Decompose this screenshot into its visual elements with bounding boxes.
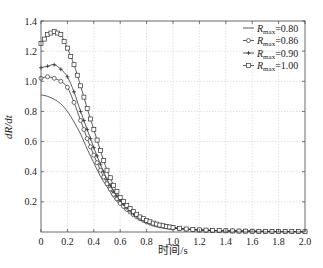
y-tick-label: 0.6 [25,136,38,147]
x-tick-label: 1.2 [193,236,206,247]
legend-item: Rmax=0.86 [243,35,298,48]
x-tick-label: 1.8 [272,236,285,247]
legend-label: Rmax=0.80 [256,23,298,36]
legend-item: Rmax=1.00 [243,60,298,73]
x-tick-label: 0 [39,236,44,247]
x-axis-label: 时间/s [158,244,187,256]
y-tick-label: 1.4 [25,16,38,27]
y-axis-label: dR/dt [2,114,14,139]
y-tick-label: 0.8 [25,106,38,117]
y-tick-label: 0.4 [25,166,38,177]
x-tick-label: 0.4 [88,236,101,247]
x-tick-label: 0.6 [114,236,127,247]
legend-item: Rmax=0.90 [243,48,298,61]
x-tick-label: 1.6 [246,236,259,247]
chart: 00.20.40.60.81.01.21.41.61.82.00.20.40.6… [0,0,323,268]
y-tick-label: 1.2 [25,46,38,57]
x-tick-label: 2.0 [299,236,312,247]
legend-label: Rmax=0.86 [256,35,298,48]
legend-item: Rmax=0.80 [243,23,298,36]
legend-label: Rmax=0.90 [256,48,298,61]
x-tick-label: 0.2 [61,236,74,247]
x-tick-label: 0.8 [140,236,153,247]
x-tick-label: 1.4 [220,236,233,247]
legend-label: Rmax=1.00 [256,60,298,73]
y-tick-label: 1.0 [25,76,38,87]
legend: Rmax=0.80Rmax=0.86Rmax=0.90Rmax=1.00 [243,23,298,74]
y-tick-label: 0.2 [25,196,38,207]
